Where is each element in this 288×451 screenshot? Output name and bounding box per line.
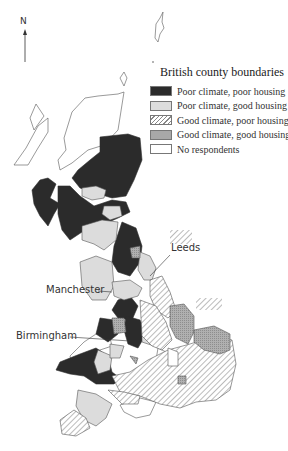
city-label-birmingham: Birmingham xyxy=(16,330,77,341)
map-legend: British county boundaries Poor climate, … xyxy=(150,65,288,157)
swatch-grey xyxy=(150,130,172,140)
legend-item-no-respondents: No respondents xyxy=(150,142,288,157)
swatch-light xyxy=(150,101,172,111)
north-arrow-icon xyxy=(23,29,27,62)
legend-item-good-climate-poor-housing: Good climate, poor housing xyxy=(150,113,288,128)
north-label: N xyxy=(20,16,27,26)
city-label-leeds: Leeds xyxy=(171,242,200,253)
city-label-manchester: Manchester xyxy=(46,284,104,295)
legend-title: British county boundaries xyxy=(160,65,288,80)
legend-item-poor-climate-good-housing: Poor climate, good housing xyxy=(150,99,288,114)
swatch-dark xyxy=(150,86,172,96)
swatch-white xyxy=(150,144,172,154)
legend-item-poor-climate-poor-housing: Poor climate, poor housing xyxy=(150,84,288,99)
legend-item-good-climate-good-housing: Good climate, good housing xyxy=(150,128,288,143)
swatch-hatch xyxy=(150,115,172,125)
